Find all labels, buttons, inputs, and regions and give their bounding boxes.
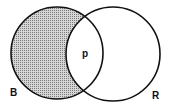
set-r-circle	[66, 7, 160, 101]
intersection-label: p	[82, 49, 88, 59]
set-r-label: R	[152, 91, 159, 101]
set-b-label: B	[10, 88, 17, 98]
